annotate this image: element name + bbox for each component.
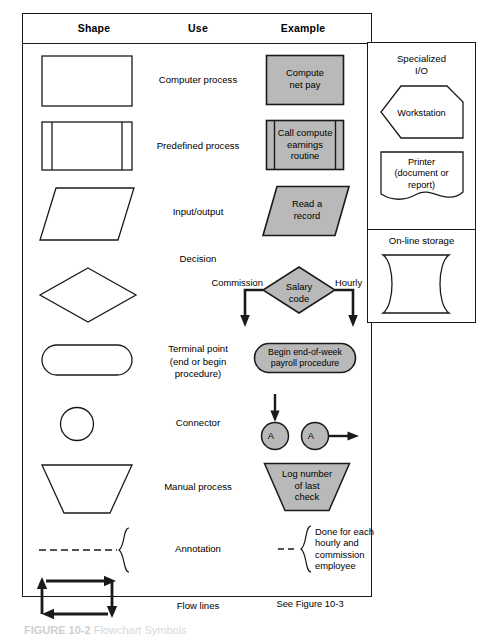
table-row: Input/output Read a record: [23, 179, 373, 245]
column-header-use: Use: [163, 22, 233, 34]
table-row: Predefined process Call compute earnings…: [23, 113, 373, 179]
shape-cell-computer-process: [29, 47, 153, 113]
example-cell-connector: A A: [247, 392, 373, 454]
use-label: Annotation: [175, 543, 221, 555]
example-cell-flow-lines: See Figure 10-3: [247, 578, 373, 634]
table-row: Computer process Compute net pay: [23, 47, 373, 113]
decision-branch-left-label: Commission: [211, 277, 263, 289]
example-cell-computer-process: Compute net pay: [247, 47, 373, 113]
use-label: Decision: [180, 253, 217, 265]
table-header-row: Shape Use Example: [23, 14, 371, 44]
use-label: Predefined process: [157, 140, 240, 152]
annotation-brace-shape-icon: [37, 526, 141, 574]
example-label: Compute net pay: [265, 67, 345, 90]
flow-lines-shape-icon: [32, 570, 146, 626]
example-label: See Figure 10-3: [247, 598, 373, 610]
use-cell-predefined-process: Predefined process: [141, 113, 255, 179]
example-label-2: A: [291, 430, 331, 442]
example-label: Salary code: [269, 281, 329, 304]
use-cell-computer-process: Computer process: [141, 47, 255, 113]
shape-cell-decision: [29, 245, 153, 330]
example-label: Done for each hourly and commission empl…: [315, 526, 385, 572]
table-row: Terminal point (end or begin procedure) …: [23, 332, 373, 392]
printer-label: Printer (document or report): [368, 157, 475, 191]
example-cell-terminal-point: Begin end-of-week payroll procedure: [247, 332, 373, 392]
table-row: Manual process Log number of last check: [23, 454, 373, 520]
use-label: Flow lines: [177, 600, 220, 612]
example-label: Log number of last check: [263, 468, 351, 503]
circle-shape-icon: [59, 406, 95, 442]
figure-page: Shape Use Example Computer process Compu…: [0, 0, 486, 641]
panel-section-title-online-storage: On-line storage: [368, 235, 475, 247]
example-label: A: [251, 430, 291, 442]
rectangle-shape-icon: [41, 55, 133, 107]
predefined-process-shape-icon: [41, 121, 133, 171]
use-label: Connector: [176, 417, 220, 429]
use-cell-annotation: Annotation: [141, 520, 255, 578]
example-cell-predefined-process: Call compute earnings routine: [247, 113, 373, 179]
use-label: Manual process: [164, 481, 232, 493]
example-cell-annotation: Done for each hourly and commission empl…: [247, 520, 373, 578]
online-storage-shape-icon: [381, 253, 463, 315]
use-cell-input-output: Input/output: [141, 179, 255, 245]
example-label: Call compute earnings routine: [265, 127, 345, 162]
use-cell-connector: Connector: [141, 392, 255, 454]
example-label: Read a record: [267, 198, 347, 221]
table-row: Connector A A: [23, 392, 373, 454]
workstation-label: Workstation: [368, 107, 475, 119]
column-header-shape: Shape: [51, 22, 137, 34]
shape-cell-predefined-process: [29, 113, 153, 179]
parallelogram-shape-icon: [39, 187, 135, 241]
shape-cell-manual-process: [29, 454, 153, 520]
figure-caption-title: Flowchart Symbols: [94, 624, 187, 636]
flowchart-symbols-table: Shape Use Example Computer process Compu…: [22, 13, 372, 597]
shape-cell-input-output: [29, 179, 153, 245]
use-label: Terminal point (end or begin procedure): [168, 343, 228, 380]
use-cell-manual-process: Manual process: [141, 454, 255, 520]
figure-caption-number: FIGURE 10-2: [24, 624, 91, 636]
example-cell-manual-process: Log number of last check: [247, 454, 373, 520]
annotation-brace-example-icon: [277, 524, 317, 574]
example-cell-input-output: Read a record: [247, 179, 373, 245]
use-label: Input/output: [173, 206, 224, 218]
stadium-shape-icon: [41, 344, 133, 376]
table-row: Decision Salary code Commission Hourly: [23, 245, 373, 330]
shape-cell-terminal-point: [29, 332, 153, 392]
trapezoid-shape-icon: [41, 464, 133, 514]
figure-caption: FIGURE 10-2 Flowchart Symbols: [24, 624, 187, 636]
shape-cell-connector: [29, 392, 153, 454]
use-cell-terminal-point: Terminal point (end or begin procedure): [141, 332, 255, 392]
panel-section-title-specialized-io: Specialized I/O: [368, 53, 475, 77]
example-label: Begin end-of-week payroll procedure: [253, 347, 357, 369]
specialized-symbols-panel: Specialized I/O Workstation Printer (doc…: [367, 42, 476, 323]
panel-divider: [368, 229, 475, 230]
column-header-example: Example: [263, 22, 343, 34]
diamond-shape-icon: [39, 267, 137, 323]
use-label: Computer process: [159, 74, 237, 86]
connector-example-icon: [251, 386, 377, 454]
example-cell-decision: Salary code Commission Hourly: [213, 245, 373, 330]
